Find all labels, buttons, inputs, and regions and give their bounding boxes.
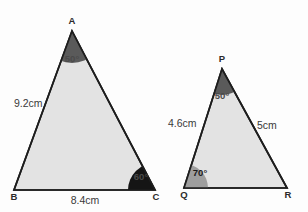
triangle-pqr-group: P Q R 4.6cm 5cm 50° 70° (160, 43, 292, 212)
vertex-label-a: A (69, 15, 76, 26)
angle-label-q: 70° (193, 167, 208, 178)
side-label-pq: 4.6cm (168, 117, 197, 129)
vertex-label-r: R (285, 189, 292, 200)
geometry-canvas: A B C 9.2cm 8.4cm 50° 60° P Q (0, 0, 308, 212)
side-label-ab: 9.2cm (14, 97, 43, 109)
vertex-label-c: C (153, 191, 160, 202)
geometry-figure: A B C 9.2cm 8.4cm 50° 60° P Q (0, 0, 308, 212)
vertex-label-b: B (11, 191, 18, 202)
angle-label-a: 50° (65, 53, 80, 64)
angle-label-p: 50° (215, 90, 230, 101)
vertex-label-q: Q (180, 189, 187, 200)
triangle-abc-group: A B C 9.2cm 8.4cm 50° 60° (11, 0, 182, 212)
angle-label-c: 60° (134, 171, 149, 182)
side-label-bc: 8.4cm (71, 194, 100, 206)
side-label-pr: 5cm (257, 119, 277, 131)
vertex-label-p: P (219, 53, 226, 64)
